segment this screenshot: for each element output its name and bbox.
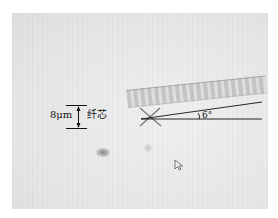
fiber-core-label: 纤芯: [87, 110, 107, 120]
mouse-pointer-icon: [174, 159, 184, 171]
angle-label: 6°: [202, 110, 212, 120]
annotation-overlay: [0, 0, 278, 218]
scale-bar-label: 8μm: [50, 110, 72, 120]
